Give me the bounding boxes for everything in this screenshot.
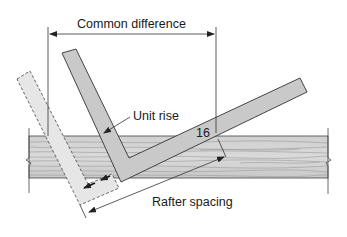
rafter-spacing-label: Rafter spacing bbox=[152, 196, 233, 209]
common-difference-label: Common difference bbox=[77, 18, 186, 31]
unit-rise-label: Unit rise bbox=[133, 110, 179, 123]
common-difference-dimension bbox=[48, 27, 216, 136]
sixteen-label: 16 bbox=[196, 127, 210, 140]
